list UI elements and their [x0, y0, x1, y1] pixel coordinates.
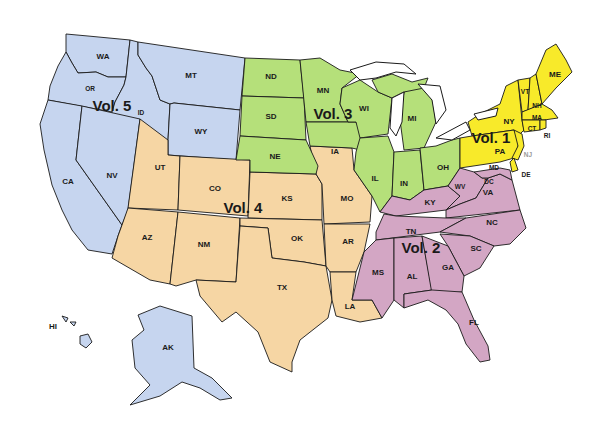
- label-wa: WA: [97, 52, 110, 61]
- label-fl: FL: [469, 318, 479, 327]
- label-ct: CT: [528, 125, 537, 132]
- label-ms: MS: [372, 268, 384, 277]
- label-il: IL: [371, 174, 378, 183]
- label-nd: ND: [265, 72, 277, 81]
- state-ri[interactable]: [540, 120, 546, 130]
- label-va: VA: [483, 188, 494, 197]
- vol3-label: Vol. 3: [314, 105, 353, 122]
- label-nj: NJ: [524, 151, 532, 158]
- label-wv: WV: [455, 183, 465, 190]
- label-dc: DC: [484, 178, 493, 185]
- label-wi: WI: [359, 104, 369, 113]
- label-me: ME: [549, 70, 561, 79]
- label-ky: KY: [424, 198, 435, 207]
- label-ne: NE: [269, 152, 280, 161]
- us-volume-map: [0, 0, 602, 430]
- state-nm[interactable]: [170, 212, 240, 286]
- label-id: ID: [138, 109, 145, 116]
- label-ny: NY: [503, 117, 514, 126]
- label-ma: MA: [532, 114, 542, 121]
- label-md: MD: [489, 164, 499, 171]
- label-mo: MO: [341, 194, 354, 203]
- region-vol1: [460, 44, 572, 172]
- label-la: LA: [345, 302, 356, 311]
- label-pa: PA: [495, 147, 506, 156]
- vol4-label: Vol. 4: [224, 199, 263, 216]
- label-oh: OH: [437, 163, 449, 172]
- label-tn: TN: [406, 227, 417, 236]
- label-wy: WY: [195, 127, 208, 136]
- state-de[interactable]: [510, 158, 518, 172]
- vol2-label: Vol. 2: [402, 239, 441, 256]
- label-ok: OK: [291, 234, 303, 243]
- label-ca: CA: [62, 177, 74, 186]
- label-ri: RI: [544, 132, 551, 139]
- state-hi-islands: [62, 316, 76, 326]
- vol1-label: Vol. 1: [472, 129, 511, 146]
- label-mt: MT: [185, 71, 197, 80]
- label-al: AL: [407, 272, 418, 281]
- label-az: AZ: [142, 233, 153, 242]
- label-mn: MN: [317, 86, 329, 95]
- state-ak[interactable]: [130, 306, 232, 405]
- label-or: OR: [85, 85, 95, 92]
- state-hi[interactable]: [80, 334, 92, 348]
- label-ia: IA: [331, 147, 339, 156]
- label-mi: MI: [408, 114, 417, 123]
- label-ut: UT: [155, 163, 166, 172]
- label-sd: SD: [265, 112, 276, 121]
- label-nv: NV: [106, 171, 117, 180]
- state-in[interactable]: [392, 150, 424, 200]
- label-co: CO: [209, 184, 221, 193]
- label-ak: AK: [162, 343, 174, 352]
- label-nc: NC: [486, 218, 498, 227]
- label-sc: SC: [470, 244, 481, 253]
- label-de: DE: [521, 171, 530, 178]
- label-nm: NM: [198, 240, 210, 249]
- label-ar: AR: [342, 237, 354, 246]
- label-hi: HI: [49, 322, 57, 331]
- label-vt: VT: [521, 88, 529, 95]
- label-ga: GA: [442, 263, 454, 272]
- label-tx: TX: [277, 283, 287, 292]
- label-ks: KS: [281, 194, 292, 203]
- label-in: IN: [400, 179, 408, 188]
- vol5-label: Vol. 5: [93, 97, 132, 114]
- label-nh: NH: [532, 102, 541, 109]
